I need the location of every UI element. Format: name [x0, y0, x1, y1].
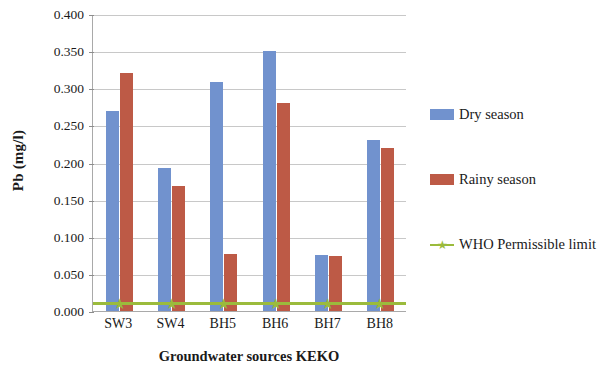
legend-label: WHO Permissible limit — [459, 235, 596, 254]
who-permissible-limit-line: ★★★★★★ — [93, 15, 406, 311]
legend-swatch-icon — [430, 174, 454, 185]
x-tick-label-sw4: SW4 — [143, 316, 199, 332]
legend-entry-who-permissible-limit: ★WHO Permissible limit — [430, 235, 596, 254]
x-tick-label-sw3: SW3 — [90, 316, 146, 332]
legend-label: Rainy season — [459, 170, 536, 189]
who-limit-star-marker: ★ — [165, 296, 178, 312]
y-tick-label: 0.250 — [26, 119, 84, 133]
legend-entry-dry-season: Dry season — [430, 105, 524, 124]
y-tick-label: 0.200 — [26, 157, 84, 171]
y-axis-title: Pb (mg/l) — [10, 91, 27, 231]
y-tickmark — [89, 312, 94, 313]
y-tick-label: 0.300 — [26, 82, 84, 96]
who-limit-star-marker: ★ — [373, 296, 386, 312]
legend-entry-rainy-season: Rainy season — [430, 170, 536, 189]
pb-concentration-bar-chart: Pb (mg/l) 0.0000.0500.1000.1500.2000.250… — [0, 0, 600, 378]
plot-area: ★★★★★★ — [92, 15, 406, 312]
y-axis-tick-labels: 0.0000.0500.1000.1500.2000.2500.3000.350… — [26, 8, 84, 312]
x-tick-label-bh6: BH6 — [247, 316, 303, 332]
y-tick-label: 0.150 — [26, 194, 84, 208]
y-tick-label: 0.100 — [26, 231, 84, 245]
y-tick-label: 0.400 — [26, 8, 84, 22]
x-tick-label-bh8: BH8 — [352, 316, 408, 332]
legend-label: Dry season — [459, 105, 524, 124]
who-limit-star-marker: ★ — [321, 296, 334, 312]
who-limit-star-marker: ★ — [113, 296, 126, 312]
who-limit-star-marker: ★ — [269, 296, 282, 312]
y-tick-label: 0.350 — [26, 45, 84, 59]
y-tick-label: 0.050 — [26, 268, 84, 282]
x-tick-label-bh7: BH7 — [300, 316, 356, 332]
x-axis-title: Groundwater sources KEKO — [72, 348, 426, 365]
legend-swatch-icon — [430, 109, 454, 120]
y-tick-label: 0.000 — [26, 305, 84, 319]
legend-line-star-icon: ★ — [430, 238, 454, 252]
who-limit-star-marker: ★ — [217, 296, 230, 312]
x-tick-label-bh5: BH5 — [195, 316, 251, 332]
x-axis-tick-labels: SW3SW4BH5BH6BH7BH8 — [92, 316, 406, 336]
